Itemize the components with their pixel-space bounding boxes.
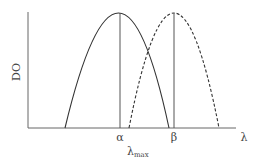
- solid-absorption-curve: [65, 13, 169, 128]
- lambda-max-sub: max: [134, 151, 149, 159]
- lambda-max-main: λ: [127, 145, 134, 158]
- y-axis-label: DO: [10, 63, 23, 81]
- beta-label: β: [171, 131, 177, 144]
- absorption-diagram: DO α β λ λmax: [0, 0, 258, 161]
- alpha-label: α: [116, 131, 124, 144]
- x-axis-label: λ: [241, 131, 248, 144]
- lambda-max-label: λmax: [127, 145, 149, 159]
